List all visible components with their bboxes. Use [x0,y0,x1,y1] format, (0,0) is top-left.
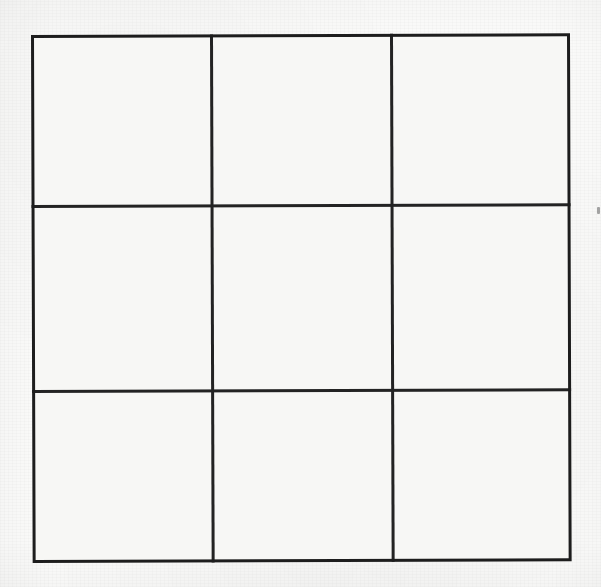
grid-drawing [31,33,572,563]
grid-outer-border [31,33,572,563]
page-canvas [0,0,601,587]
scan-speck-artifact [597,207,600,214]
